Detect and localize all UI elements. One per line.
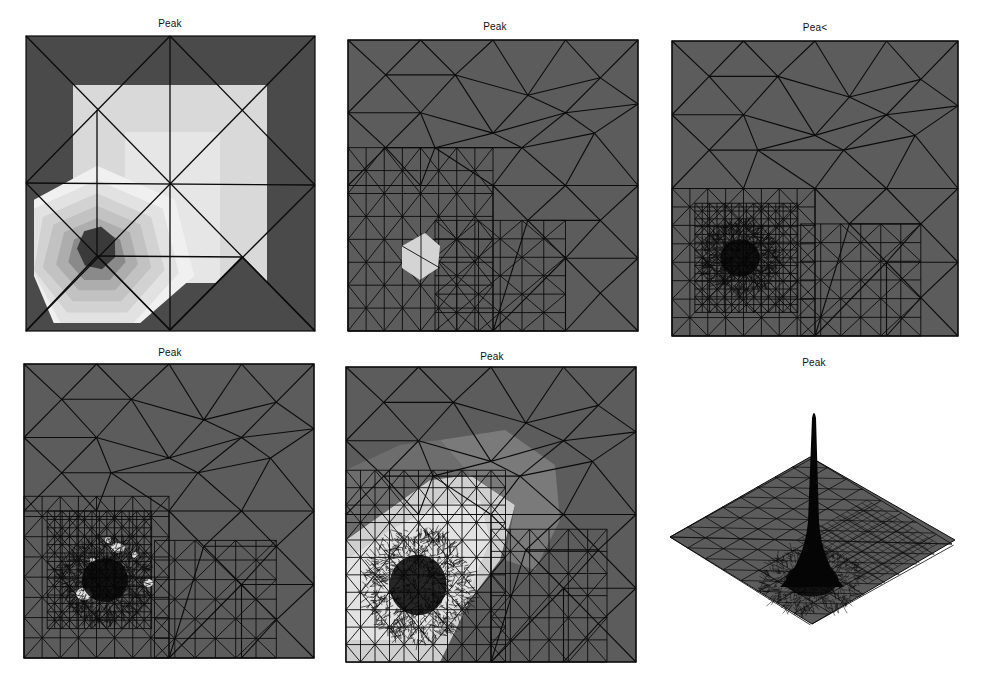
mesh-plots-canvas <box>0 0 982 682</box>
p2-plot <box>348 40 638 331</box>
p4-plot <box>24 364 314 658</box>
p3-plot <box>672 41 958 336</box>
p6-plot <box>670 413 955 625</box>
p1-plot <box>26 36 315 331</box>
p5-plot <box>346 367 636 662</box>
